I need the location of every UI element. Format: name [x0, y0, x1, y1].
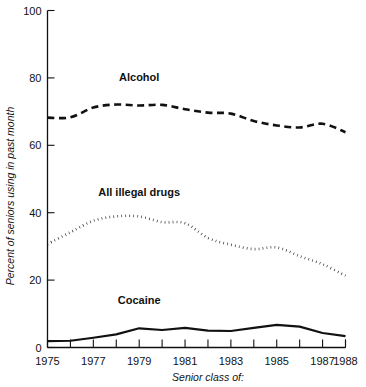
x-tick-label: 1981 — [173, 355, 197, 367]
chart-container: 020406080100 197519771979198119831985198… — [0, 0, 366, 387]
data-series-group — [48, 104, 346, 341]
series-annotation-all-illegal-drugs: All illegal drugs — [98, 186, 180, 198]
x-tick-label: 1975 — [35, 355, 59, 367]
y-tick-label: 20 — [29, 274, 41, 286]
y-axis: 020406080100 — [23, 5, 54, 354]
series-line-alcohol — [48, 104, 346, 132]
y-axis-title: Percent of seniors using in past month — [4, 107, 16, 286]
series-line-cocaine — [48, 325, 346, 341]
x-tick-label: 1977 — [81, 355, 105, 367]
x-tick-label: 1979 — [127, 355, 151, 367]
series-annotation-alcohol: Alcohol — [119, 71, 159, 83]
series-line-all-illegal-drugs — [48, 216, 346, 276]
x-axis-title: Senior class of: — [172, 371, 244, 383]
y-tick-label: 80 — [29, 72, 41, 84]
series-annotation-cocaine: Cocaine — [118, 294, 161, 306]
x-tick-label: 1987 — [310, 355, 334, 367]
x-tick-label: 1985 — [264, 355, 288, 367]
x-tick-group: 19751977197919811983198519871988 — [35, 340, 357, 367]
y-tick-label: 100 — [23, 5, 41, 17]
line-chart-svg: 020406080100 197519771979198119831985198… — [0, 0, 366, 387]
y-tick-group: 020406080100 — [23, 5, 54, 354]
x-tick-label: 1983 — [219, 355, 243, 367]
y-tick-label: 40 — [29, 207, 41, 219]
y-tick-label: 0 — [35, 342, 41, 354]
x-tick-label: 1988 — [333, 355, 357, 367]
x-axis: 19751977197919811983198519871988 — [35, 340, 357, 367]
y-tick-label: 60 — [29, 139, 41, 151]
